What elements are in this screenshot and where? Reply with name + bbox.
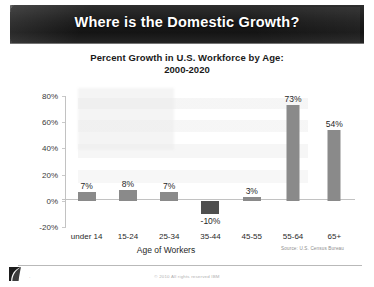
x-axis-category-label: 55-64 (283, 232, 303, 241)
y-axis-tick-label: 80% (28, 92, 58, 101)
y-axis-tick-label: 0% (28, 196, 58, 205)
chart-source-note: Source: U.S. Census Bureau (281, 246, 344, 251)
bar-value-label: 7% (80, 181, 92, 191)
chart-plot-area: 80%60%40%20%0%-20% 7%8%7%-10%3%73%54% un… (0, 0, 374, 287)
x-axis-category-label: 15-24 (118, 232, 138, 241)
x-axis-title: Age of Workers (66, 245, 266, 255)
y-axis-tick-label: 60% (28, 118, 58, 127)
bar-slot: 73% (272, 96, 313, 227)
y-axis-tick-label: 20% (28, 170, 58, 179)
y-axis-tick-label: 40% (28, 144, 58, 153)
y-axis-tick-label: -20% (28, 223, 58, 232)
bar-slot: 7% (66, 96, 107, 227)
bar (243, 197, 261, 201)
bar-slot: 8% (107, 96, 148, 227)
bar-slot: 7% (149, 96, 190, 227)
footer-divider (18, 265, 362, 266)
bar-slot: -10% (190, 96, 231, 227)
bar (328, 130, 341, 201)
bar-value-label: -10% (201, 216, 221, 226)
bar (160, 192, 178, 201)
x-axis-category-label: 45-55 (242, 232, 262, 241)
copyright-text: © 2010 All rights reserved IBM (0, 274, 374, 279)
bar-series: 7%8%7%-10%3%73%54% (66, 96, 355, 227)
y-axis-labels: 80%60%40%20%0%-20% (28, 0, 58, 287)
x-axis-category-label: 35-44 (200, 232, 220, 241)
bar (287, 105, 300, 201)
bar-value-label: 3% (246, 186, 258, 196)
slide-title: Where is the Domestic Growth? (10, 14, 364, 30)
bar-value-label: 54% (326, 119, 343, 129)
bar-value-label: 8% (122, 179, 134, 189)
bar (201, 201, 219, 214)
x-axis-category-label: under 14 (71, 232, 103, 241)
x-axis-category-label: 25-34 (159, 232, 179, 241)
bar-slot: 3% (231, 96, 272, 227)
bar (78, 192, 96, 201)
bar-value-label: 73% (285, 94, 302, 104)
bar-slot: 54% (314, 96, 355, 227)
bar-value-label: 7% (163, 181, 175, 191)
x-axis-category-label: 65+ (328, 232, 342, 241)
bar (119, 190, 137, 200)
y-axis-tick (62, 227, 66, 228)
